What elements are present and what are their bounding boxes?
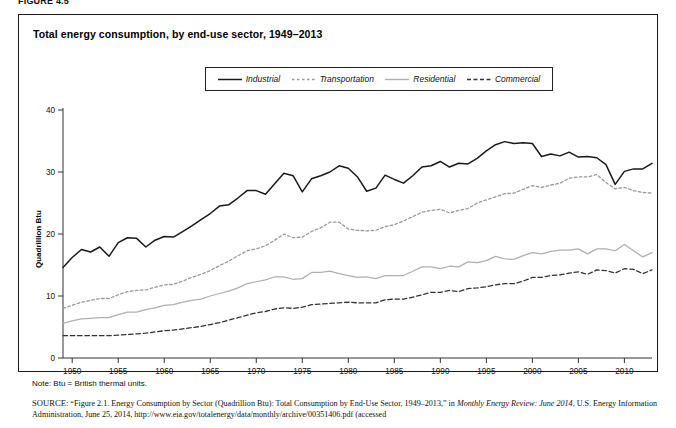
source-line1-italic: Monthly Energy Review: [457,399,537,408]
legend-label-residential: Residential [413,74,455,84]
figure-number: FIGURE 4.5 [18,0,69,6]
source-prefix: SOURCE: [32,398,68,408]
chart-note: Note: Btu = British thermal units. [32,379,147,388]
legend-label-industrial: Industrial [246,74,281,84]
legend-label-transportation: Transportation [320,74,374,84]
line-dashed-icon [467,76,491,83]
line-dotted-icon [292,76,316,83]
legend-label-commercial: Commercial [495,74,540,84]
legend-item-commercial[interactable]: Commercial [467,74,540,84]
y-axis-title: Quadrillion Btu [34,210,43,268]
chart-container: Total energy consumption, by end-use sec… [18,14,658,372]
line-solid-light-icon [385,76,409,83]
legend-item-residential[interactable]: Residential [385,74,455,84]
legend-item-industrial[interactable]: Industrial [218,74,281,84]
chart-title: Total energy consumption, by end-use sec… [33,28,322,40]
chart-source: SOURCE: “Figure 2.1. Energy Consumption … [32,398,662,421]
source-line1a: “Figure 2.1. Energy Consumption by Secto… [70,399,457,408]
legend-item-transportation[interactable]: Transportation [292,74,374,84]
source-line2-italic: June 2014 [539,399,573,408]
chart-legend: Industrial Transportation Residential Co… [205,67,553,91]
line-solid-icon [218,76,242,83]
